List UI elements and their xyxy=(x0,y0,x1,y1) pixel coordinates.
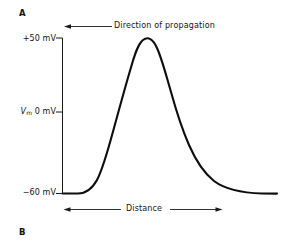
y-axis xyxy=(56,38,63,194)
direction-arrow-group xyxy=(64,24,112,29)
arrow-right-head-icon xyxy=(216,207,223,212)
arrow-left-icon xyxy=(64,24,71,29)
membrane-potential-trace xyxy=(63,38,278,193)
action-potential-plot xyxy=(0,0,291,245)
distance-arrow-group xyxy=(64,207,223,212)
panel-b-label: B xyxy=(19,227,26,237)
figure-container: A +50 mV Vm 0 mV −60 mV Direction of pro… xyxy=(0,0,291,245)
arrow-left-head-icon xyxy=(64,207,71,212)
